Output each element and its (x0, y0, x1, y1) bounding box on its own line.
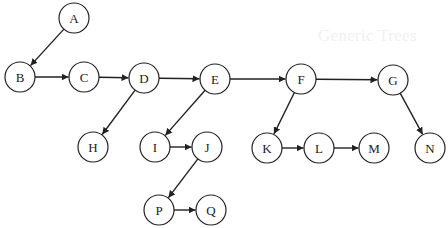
edge-d-to-h (102, 90, 135, 134)
edge-f-to-k (274, 93, 295, 135)
edge-a-to-b (31, 29, 64, 66)
node-p: P (144, 195, 174, 225)
node-label: G (388, 73, 397, 88)
node-label: Q (206, 203, 216, 218)
node-e: E (200, 64, 230, 94)
node-b: B (5, 62, 35, 92)
node-d: D (129, 63, 159, 93)
edges-layer (31, 29, 423, 210)
edge-f-to-g (316, 79, 378, 80)
node-label: M (368, 141, 380, 156)
node-label: D (139, 71, 148, 86)
node-l: L (304, 133, 334, 163)
node-q: Q (196, 195, 226, 225)
node-label: E (211, 72, 219, 87)
tree-diagram: ABCDEFGHIJKLMNPQ (0, 0, 448, 228)
node-label: C (80, 70, 89, 85)
node-n: N (415, 133, 445, 163)
node-m: M (359, 133, 389, 163)
node-label: K (262, 141, 272, 156)
node-label: F (297, 72, 304, 87)
node-label: L (315, 141, 323, 156)
node-a: A (59, 3, 89, 33)
node-j: J (192, 132, 222, 162)
node-g: G (378, 65, 408, 95)
edge-g-to-n (400, 93, 422, 134)
node-label: I (153, 140, 157, 155)
node-label: H (88, 140, 97, 155)
node-label: N (425, 141, 435, 156)
edge-c-to-d (99, 77, 129, 78)
node-label: P (155, 203, 162, 218)
node-c: C (69, 62, 99, 92)
edge-d-to-e (159, 78, 200, 79)
node-i: I (140, 132, 170, 162)
node-label: B (16, 70, 25, 85)
node-label: A (69, 11, 79, 26)
node-h: H (78, 132, 108, 162)
nodes-layer: ABCDEFGHIJKLMNPQ (5, 3, 445, 225)
node-label: J (204, 140, 209, 155)
edge-e-to-i (165, 90, 205, 135)
edge-j-to-p (168, 159, 198, 198)
node-f: F (286, 64, 316, 94)
node-k: K (252, 133, 282, 163)
